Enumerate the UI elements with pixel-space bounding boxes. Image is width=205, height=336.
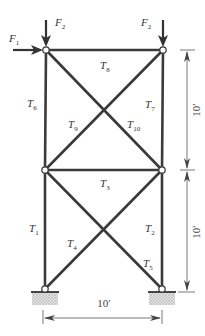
label-T8: T8 [100,59,110,74]
label-T6: T6 [27,97,37,112]
label-T4: T4 [67,237,77,252]
label-T9: T9 [68,118,78,133]
label-T3: T3 [100,177,110,192]
label-T1: T1 [29,222,39,237]
ground-support-left [31,292,59,305]
node-bottom-left [42,286,48,292]
member-T7 [162,50,163,170]
label-T7: T7 [145,98,155,113]
node-top-right [160,47,166,53]
dimension-horizontal [43,310,162,324]
force-arrow-F2-left [41,20,51,47]
node-bottom-right [159,286,165,292]
dimension-width: 10′ [97,297,110,309]
label-F2-left: F2 [54,16,66,31]
dimension-lower-height: 10′ [190,225,202,238]
label-F1: F1 [8,32,20,47]
label-T10: T10 [127,118,141,133]
node-mid-right [159,167,165,173]
dimension-vertical [178,50,195,292]
truss-diagram: F1 F2 F2 T8 T6 T7 T9 T10 T3 T1 T2 T4 T5 … [0,0,205,336]
node-mid-left [42,167,48,173]
label-T2: T2 [145,222,155,237]
ground-support-right [148,292,176,305]
member-T6 [45,50,46,170]
truss-members [45,50,163,289]
dimension-upper-height: 10′ [190,103,202,116]
force-arrow-F2-right [158,20,168,47]
node-top-left [43,47,49,53]
label-F2-right: F2 [140,16,152,31]
